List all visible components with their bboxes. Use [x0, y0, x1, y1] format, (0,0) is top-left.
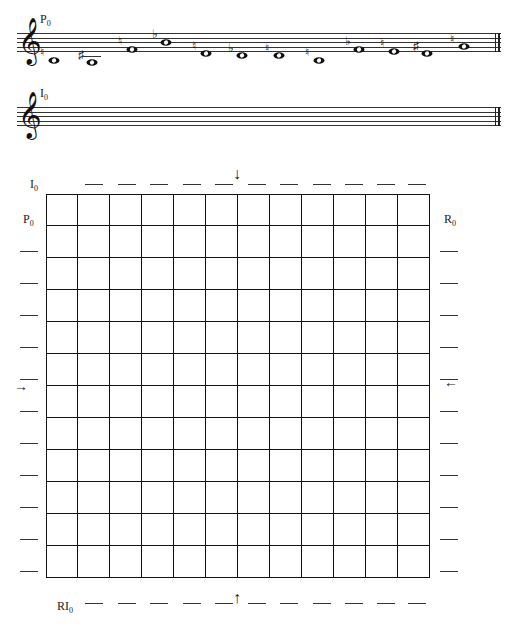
matrix-cell[interactable]	[142, 322, 174, 354]
matrix-cell[interactable]	[206, 258, 238, 290]
matrix-cell[interactable]	[238, 194, 270, 226]
matrix-cell[interactable]	[270, 194, 302, 226]
matrix-cell[interactable]	[78, 482, 110, 514]
matrix-cell[interactable]	[398, 546, 430, 578]
ri0-answer-blank[interactable]	[183, 603, 201, 604]
matrix-cell[interactable]	[238, 482, 270, 514]
r0-answer-blank[interactable]	[440, 507, 458, 508]
matrix-cell[interactable]	[142, 386, 174, 418]
matrix-cell[interactable]	[174, 290, 206, 322]
matrix-cell[interactable]	[46, 226, 78, 258]
i0-answer-blank[interactable]	[377, 184, 395, 185]
i0-answer-blank[interactable]	[118, 184, 136, 185]
p0-answer-blank[interactable]	[20, 251, 38, 252]
r0-answer-blank[interactable]	[440, 347, 458, 348]
i0-answer-blank[interactable]	[248, 184, 266, 185]
matrix-cell[interactable]	[270, 418, 302, 450]
matrix-cell[interactable]	[110, 546, 142, 578]
r0-answer-blank[interactable]	[440, 571, 458, 572]
matrix-cell[interactable]	[206, 290, 238, 322]
matrix-cell[interactable]	[142, 482, 174, 514]
matrix-cell[interactable]	[334, 258, 366, 290]
i0-answer-blank[interactable]	[85, 184, 103, 185]
matrix-cell[interactable]	[366, 226, 398, 258]
matrix-cell[interactable]	[238, 514, 270, 546]
matrix-cell[interactable]	[302, 354, 334, 386]
r0-answer-blank[interactable]	[440, 443, 458, 444]
matrix-cell[interactable]	[366, 322, 398, 354]
p0-answer-blank[interactable]	[20, 315, 38, 316]
matrix-cell[interactable]	[142, 194, 174, 226]
matrix-cell[interactable]	[206, 514, 238, 546]
matrix-cell[interactable]	[206, 226, 238, 258]
matrix-cell[interactable]	[238, 290, 270, 322]
p0-answer-blank[interactable]	[20, 539, 38, 540]
i0-answer-blank[interactable]	[150, 184, 168, 185]
matrix-cell[interactable]	[142, 226, 174, 258]
r0-answer-blank[interactable]	[440, 411, 458, 412]
matrix-cell[interactable]	[334, 290, 366, 322]
ri0-answer-blank[interactable]	[215, 603, 233, 604]
r0-answer-blank[interactable]	[440, 283, 458, 284]
matrix-cell[interactable]	[238, 450, 270, 482]
i0-answer-blank[interactable]	[183, 184, 201, 185]
matrix-cell[interactable]	[174, 482, 206, 514]
matrix-cell[interactable]	[398, 514, 430, 546]
matrix-cell[interactable]	[398, 450, 430, 482]
matrix-cell[interactable]	[142, 418, 174, 450]
ri0-answer-blank[interactable]	[377, 603, 395, 604]
matrix-cell[interactable]	[302, 386, 334, 418]
matrix-cell[interactable]	[46, 354, 78, 386]
matrix-cell[interactable]	[142, 514, 174, 546]
matrix-cell[interactable]	[334, 514, 366, 546]
p0-answer-blank[interactable]	[20, 571, 38, 572]
matrix-cell[interactable]	[334, 386, 366, 418]
r0-answer-blank[interactable]	[440, 251, 458, 252]
matrix-cell[interactable]	[110, 290, 142, 322]
matrix-cell[interactable]	[142, 450, 174, 482]
p0-answer-blank[interactable]	[20, 283, 38, 284]
matrix-cell[interactable]	[398, 194, 430, 226]
matrix-cell[interactable]	[366, 418, 398, 450]
matrix-cell[interactable]	[302, 258, 334, 290]
p0-answer-blank[interactable]	[20, 475, 38, 476]
matrix-cell[interactable]	[78, 322, 110, 354]
matrix-cell[interactable]	[110, 354, 142, 386]
matrix-cell[interactable]	[334, 194, 366, 226]
matrix-cell[interactable]	[46, 290, 78, 322]
matrix-cell[interactable]	[110, 386, 142, 418]
matrix-cell[interactable]	[398, 226, 430, 258]
matrix-cell[interactable]	[366, 482, 398, 514]
matrix-cell[interactable]	[398, 322, 430, 354]
matrix-cell[interactable]	[78, 386, 110, 418]
matrix-cell[interactable]	[174, 418, 206, 450]
matrix-cell[interactable]	[270, 546, 302, 578]
i0-answer-blank[interactable]	[215, 184, 233, 185]
matrix-cell[interactable]	[78, 418, 110, 450]
matrix-cell[interactable]	[142, 354, 174, 386]
matrix-cell[interactable]	[110, 450, 142, 482]
matrix-cell[interactable]	[174, 258, 206, 290]
matrix-cell[interactable]	[366, 386, 398, 418]
matrix-cell[interactable]	[238, 386, 270, 418]
matrix-cell[interactable]	[302, 194, 334, 226]
matrix-cell[interactable]	[302, 226, 334, 258]
matrix-cell[interactable]	[206, 546, 238, 578]
matrix-cell[interactable]	[366, 450, 398, 482]
ri0-answer-blank[interactable]	[248, 603, 266, 604]
matrix-cell[interactable]	[46, 258, 78, 290]
matrix-cell[interactable]	[238, 322, 270, 354]
matrix-cell[interactable]	[270, 354, 302, 386]
matrix-cell[interactable]	[270, 322, 302, 354]
matrix-cell[interactable]	[398, 354, 430, 386]
matrix-cell[interactable]	[270, 386, 302, 418]
matrix-cell[interactable]	[142, 258, 174, 290]
matrix-cell[interactable]	[270, 450, 302, 482]
i0-answer-blank[interactable]	[408, 184, 426, 185]
ri0-answer-blank[interactable]	[280, 603, 298, 604]
i0-answer-blank[interactable]	[345, 184, 363, 185]
matrix-cell[interactable]	[78, 226, 110, 258]
matrix-cell[interactable]	[238, 418, 270, 450]
matrix-cell[interactable]	[206, 354, 238, 386]
matrix-cell[interactable]	[46, 322, 78, 354]
